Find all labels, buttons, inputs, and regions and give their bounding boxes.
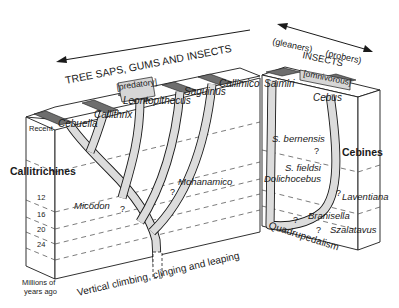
time-unit-line2: years ago xyxy=(24,287,57,296)
group-callitrichines: Callitrichines xyxy=(10,165,76,177)
fossil-s-fieldsi: S. fieldsi xyxy=(285,162,322,173)
s-bernensis-uncertain: ? xyxy=(314,146,319,156)
time-tick-12: 12 xyxy=(37,193,45,202)
time-tick-24: 24 xyxy=(37,240,45,249)
taxon-callithrix: Callithrix xyxy=(94,109,133,120)
taxon-saimiri: Saimiri xyxy=(264,78,295,89)
time-tick-20: 20 xyxy=(37,225,45,234)
fossil-micodon: Micodon xyxy=(74,200,110,211)
group-cebines: Cebines xyxy=(342,146,383,158)
fossil-dolichocebus: Dolichocebus xyxy=(264,173,321,184)
time-unit-line1: Millions of xyxy=(22,278,56,287)
mohanamico-uncertain: ? xyxy=(170,187,175,197)
taxon-callimico: Callimico xyxy=(219,78,260,89)
fossil-szalatavus: Szalatavus xyxy=(330,224,377,235)
taxon-leontopithecus: Leontopithecus xyxy=(123,95,191,106)
taxon-cebus: Cebus xyxy=(313,92,342,103)
time-recent: Recent xyxy=(29,124,54,133)
micodon-uncertain: ? xyxy=(120,204,125,214)
fossil-s-bernensis: S. bernensis xyxy=(272,133,325,144)
fossil-branisella: Branisella xyxy=(308,210,350,221)
time-tick-16: 16 xyxy=(37,210,45,219)
fossil-laventiana: Laventiana xyxy=(342,191,388,202)
branisella-uncertain: ? xyxy=(293,215,298,225)
fossil-mohanamico: Mohanamico xyxy=(178,176,232,187)
laventiana-uncertain: ? xyxy=(336,188,341,198)
phylogeny-diagram: TREE SAPS, GUMS AND INSECTS (gleaners) (… xyxy=(0,0,399,308)
taxon-cebuella: Cebuella xyxy=(58,118,98,129)
